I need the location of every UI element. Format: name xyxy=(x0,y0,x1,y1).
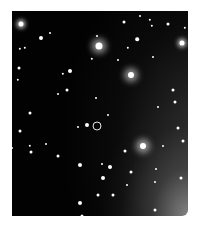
star xyxy=(62,73,64,75)
star xyxy=(85,123,89,127)
star xyxy=(128,72,134,78)
star xyxy=(19,22,24,27)
star xyxy=(57,93,59,95)
star xyxy=(177,127,180,130)
star xyxy=(107,114,109,116)
star xyxy=(162,145,164,147)
star xyxy=(180,177,183,180)
star xyxy=(77,126,79,128)
star xyxy=(49,32,51,34)
star xyxy=(12,147,13,149)
star xyxy=(180,41,185,46)
star xyxy=(39,36,43,40)
star xyxy=(45,143,47,145)
star xyxy=(154,209,157,212)
star xyxy=(135,37,139,41)
star xyxy=(101,163,103,165)
star-field-image xyxy=(12,11,188,216)
star xyxy=(167,23,170,26)
star xyxy=(66,89,69,92)
star xyxy=(130,171,133,174)
star xyxy=(78,163,82,167)
star xyxy=(17,79,19,81)
star xyxy=(108,165,112,169)
star xyxy=(149,19,151,21)
star xyxy=(184,27,186,29)
star xyxy=(96,35,98,37)
star xyxy=(174,101,177,104)
star xyxy=(126,184,128,186)
star xyxy=(172,89,175,92)
star xyxy=(18,67,21,70)
star xyxy=(139,15,141,17)
star xyxy=(152,56,154,58)
star xyxy=(57,155,60,158)
star xyxy=(182,140,185,143)
star xyxy=(117,59,119,61)
star xyxy=(123,21,126,24)
star xyxy=(30,151,33,154)
star xyxy=(29,112,32,115)
star xyxy=(154,181,156,183)
star xyxy=(68,69,72,73)
star xyxy=(78,201,82,205)
star xyxy=(81,215,84,217)
star xyxy=(157,106,159,108)
star xyxy=(127,47,129,49)
star xyxy=(112,194,115,197)
star xyxy=(95,97,97,99)
star xyxy=(19,48,21,50)
star xyxy=(91,58,93,60)
target-circle-marker xyxy=(93,122,102,131)
star xyxy=(29,145,31,147)
star xyxy=(140,143,146,149)
star xyxy=(124,150,127,153)
star xyxy=(97,194,100,197)
star xyxy=(24,47,26,49)
star xyxy=(155,168,157,170)
star xyxy=(96,43,103,50)
star xyxy=(19,130,22,133)
star xyxy=(101,176,105,180)
star xyxy=(151,25,153,27)
